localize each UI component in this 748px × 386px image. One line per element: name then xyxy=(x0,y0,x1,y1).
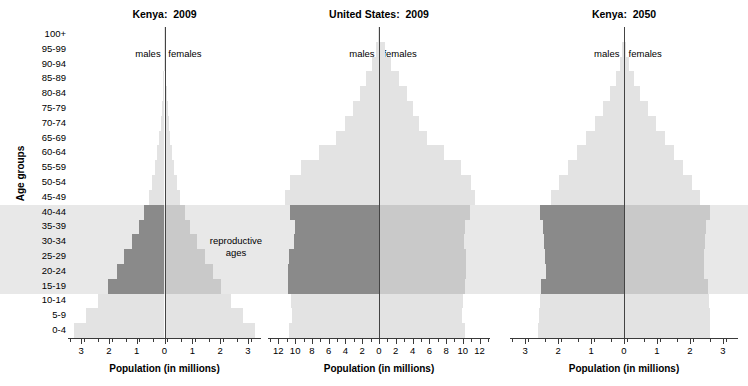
bar-females xyxy=(624,175,692,190)
bar-males xyxy=(157,145,164,160)
x-axis-tick xyxy=(295,338,296,344)
x-axis-minor-tick xyxy=(237,338,238,342)
bar-females xyxy=(379,145,444,160)
x-axis-minor-tick xyxy=(594,338,595,342)
x-axis-tick-label: 3 xyxy=(523,345,528,356)
x-axis-tick-label: 4 xyxy=(410,345,415,356)
x-axis-minor-tick xyxy=(98,338,99,342)
x-axis-tick xyxy=(463,338,464,344)
bar-females xyxy=(379,116,419,131)
x-axis-minor-tick xyxy=(693,338,694,342)
x-axis-minor-tick xyxy=(251,338,252,342)
x-axis-tick-label: 0 xyxy=(621,345,626,356)
x-axis-tick-label: 10 xyxy=(290,345,301,356)
x-axis-tick xyxy=(413,338,414,344)
x-axis-minor-tick xyxy=(611,338,612,342)
bar-females xyxy=(624,264,704,279)
x-axis-tick xyxy=(624,338,625,344)
x-axis-minor-tick xyxy=(710,338,711,342)
bar-males xyxy=(289,323,379,338)
bar-males xyxy=(132,234,164,249)
x-axis-minor-tick xyxy=(726,338,727,342)
x-axis-minor-tick xyxy=(512,338,513,342)
age-group-label: 95-99 xyxy=(22,44,66,54)
bar-females xyxy=(379,101,413,116)
bar-females xyxy=(379,175,471,190)
bar-females xyxy=(165,264,213,279)
bar-males xyxy=(540,205,624,220)
x-axis-minor-tick xyxy=(421,338,422,342)
plot-area xyxy=(68,27,261,338)
x-axis-minor-tick xyxy=(181,338,182,342)
age-group-label: 70-74 xyxy=(22,118,66,128)
bar-females xyxy=(624,205,710,220)
bar-females xyxy=(624,101,648,116)
bar-females xyxy=(379,323,465,338)
x-axis-minor-tick xyxy=(112,338,113,342)
age-group-label: 100+ xyxy=(22,29,66,39)
x-axis-minor-tick xyxy=(454,338,455,342)
bar-females xyxy=(165,190,181,205)
age-group-label: 0-4 xyxy=(22,325,66,335)
bar-females xyxy=(165,308,244,323)
bar-males xyxy=(86,308,164,323)
age-group-label: 30-34 xyxy=(22,236,66,246)
bar-females xyxy=(165,145,173,160)
age-group-label: 10-14 xyxy=(22,295,66,305)
x-axis-tick-label: 2 xyxy=(687,345,692,356)
bar-females xyxy=(624,131,665,146)
x-axis-tick xyxy=(345,338,346,344)
x-axis-minor-tick xyxy=(677,338,678,342)
x-axis-tick xyxy=(525,338,526,344)
x-axis-minor-tick xyxy=(528,338,529,342)
x-axis-tick xyxy=(723,338,724,344)
bar-females xyxy=(165,160,175,175)
x-axis-tick xyxy=(379,338,380,344)
bar-males xyxy=(559,175,624,190)
x-axis-minor-tick xyxy=(488,338,489,342)
x-axis-title: Population (in millions) xyxy=(510,363,738,374)
age-group-label: 85-89 xyxy=(22,73,66,83)
age-group-label: 5-9 xyxy=(22,310,66,320)
center-axis-line xyxy=(165,27,166,338)
bar-males xyxy=(319,145,379,160)
x-axis-tick xyxy=(165,338,166,344)
bar-males xyxy=(345,116,379,131)
x-axis-tick xyxy=(220,338,221,344)
bar-males xyxy=(285,190,379,205)
x-axis-tick xyxy=(690,338,691,344)
age-group-axis: 100+95-9990-9485-8980-8475-7970-7465-696… xyxy=(22,27,66,338)
x-axis-minor-tick xyxy=(153,338,154,342)
panel-title: Kenya: 2050 xyxy=(510,8,738,20)
bar-males xyxy=(577,145,624,160)
x-axis-minor-tick xyxy=(354,338,355,342)
bar-males xyxy=(360,86,379,101)
center-axis-line xyxy=(624,27,625,338)
x-axis-minor-tick xyxy=(167,338,168,342)
x-axis-minor-tick xyxy=(404,338,405,342)
x-axis-minor-tick xyxy=(387,338,388,342)
age-group-label: 60-64 xyxy=(22,147,66,157)
x-axis-minor-tick xyxy=(337,338,338,342)
x-axis-minor-tick xyxy=(660,338,661,342)
x-axis-tick-label: 6 xyxy=(427,345,432,356)
bar-males xyxy=(290,175,379,190)
x-axis-tick xyxy=(396,338,397,344)
plot-area xyxy=(510,27,738,338)
x-axis-tick xyxy=(329,338,330,344)
bar-females xyxy=(379,205,470,220)
age-group-label: 25-29 xyxy=(22,251,66,261)
age-group-label: 40-44 xyxy=(22,207,66,217)
bar-females xyxy=(379,308,462,323)
bar-females xyxy=(379,249,466,264)
bar-males xyxy=(149,190,165,205)
bar-females xyxy=(379,57,391,72)
x-axis-tick xyxy=(657,338,658,344)
x-axis-tick xyxy=(81,338,82,344)
bar-females xyxy=(624,160,683,175)
bar-males xyxy=(372,57,379,72)
bar-females xyxy=(379,160,461,175)
x-axis-tick-label: 12 xyxy=(273,345,284,356)
bar-females xyxy=(379,71,399,86)
x-axis-tick-label: 0 xyxy=(376,345,381,356)
